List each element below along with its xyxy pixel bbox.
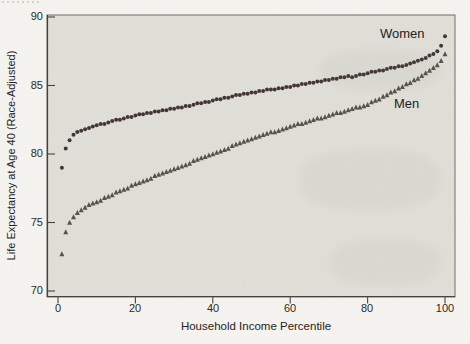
y-tick-label: 85	[13, 80, 43, 91]
women-series-label: Women	[380, 26, 425, 41]
x-tick-label: 20	[129, 303, 141, 314]
y-tick-label: 75	[13, 217, 43, 228]
x-tick-label: 80	[361, 303, 373, 314]
y-tick-label: 70	[13, 285, 43, 296]
y-tick-label: 90	[13, 11, 43, 22]
x-tick-label: 0	[55, 303, 61, 314]
scatter-plot	[0, 0, 470, 344]
y-tick-label: 80	[13, 148, 43, 159]
x-axis-title: Household Income Percentile	[181, 320, 331, 332]
x-tick-label: 100	[436, 303, 454, 314]
figure-scan: 90 85 80 75 70 0 20 40 60 80 100 Life Ex…	[0, 0, 470, 344]
x-tick-label: 60	[284, 303, 296, 314]
men-series-label: Men	[394, 96, 419, 111]
paper-grain	[0, 0, 470, 344]
y-axis-title: Life Expectancy at Age 40 (Race-Adjusted…	[5, 0, 18, 312]
x-tick-label: 40	[207, 303, 219, 314]
